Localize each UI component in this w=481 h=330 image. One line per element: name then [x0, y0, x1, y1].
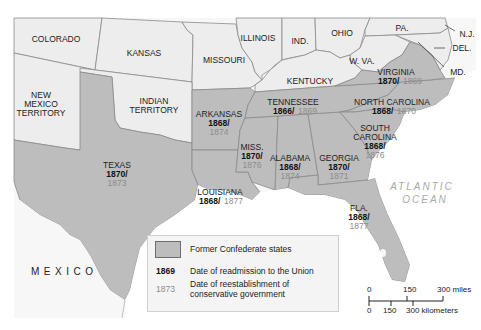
svg-text:1866/: 1866/: [273, 106, 295, 116]
label-atlantic: ATLANTIC: [389, 181, 454, 192]
label-maryland: MD.: [450, 67, 466, 77]
legend-conservative-label-line2: conservative government: [190, 290, 285, 300]
svg-text:1868/: 1868/: [199, 196, 221, 206]
label-west-virginia: W. VA.: [349, 56, 374, 66]
label-illinois: ILLINOIS: [241, 33, 276, 43]
label-indian-territory-line2: TERRITORY: [130, 105, 179, 115]
scale-miles-0: 0: [367, 285, 371, 294]
label-kansas: KANSAS: [127, 48, 162, 58]
svg-text:1868/: 1868/: [372, 106, 394, 116]
label-florida: FLA. 1868/ 1877: [348, 203, 370, 231]
label-kentucky: KENTUCKY: [287, 76, 334, 86]
svg-text:1870/: 1870/: [378, 76, 400, 86]
label-mexico: MEXICO: [31, 266, 97, 277]
label-indiana: IND.: [292, 36, 309, 46]
svg-text:1877: 1877: [224, 196, 243, 206]
label-ocean: OCEAN: [402, 194, 448, 205]
svg-text:1871: 1871: [330, 171, 349, 181]
label-mississippi: MISS. 1870/ 1876: [240, 142, 263, 170]
svg-text:1874: 1874: [210, 127, 229, 137]
label-ohio: OHIO: [331, 28, 353, 38]
svg-text:1876: 1876: [243, 160, 262, 170]
reconstruction-map: COLORADO KANSAS MISSOURI ILLINOIS IND. O…: [0, 0, 481, 330]
svg-text:1869: 1869: [403, 76, 422, 86]
legend-readmission-label: Date of readmission to the Union: [190, 267, 314, 277]
label-tennessee: TENNESSEE 1866/ 1869: [267, 97, 319, 116]
label-delaware: DEL.: [453, 43, 472, 53]
legend-readmission-sample: 1869: [156, 267, 175, 277]
label-colorado: COLORADO: [32, 34, 81, 44]
label-new-jersey: N.J.: [459, 29, 474, 39]
label-louisiana: LOUISIANA 1868/ 1877: [197, 187, 243, 206]
legend-confederate-label: Former Confederate states: [190, 245, 292, 255]
svg-text:1877: 1877: [350, 221, 369, 231]
svg-text:1874: 1874: [281, 171, 300, 181]
scale-miles-300: 300 miles: [437, 285, 471, 294]
legend-conservative-sample: 1873: [156, 285, 175, 295]
confederate-swatch: [155, 241, 181, 258]
scale-km-300: 300 kilometers: [406, 306, 458, 315]
label-pennsylvania: PA.: [395, 23, 408, 33]
scale-km-150: 150: [383, 306, 396, 315]
label-new-mexico-line3: TERRITORY: [17, 108, 66, 118]
scale-bar: 0 150 300 miles 0 150 300 kilometers: [365, 285, 480, 325]
scale-km-0: 0: [367, 306, 371, 315]
map-legend: Former Confederate states 1869 Date of r…: [147, 235, 339, 312]
svg-text:1873: 1873: [108, 178, 127, 188]
svg-text:1876: 1876: [366, 150, 385, 160]
scale-miles-150: 150: [403, 285, 416, 294]
svg-text:1870: 1870: [397, 106, 416, 116]
svg-text:1869: 1869: [298, 106, 317, 116]
label-missouri: MISSOURI: [203, 55, 245, 65]
